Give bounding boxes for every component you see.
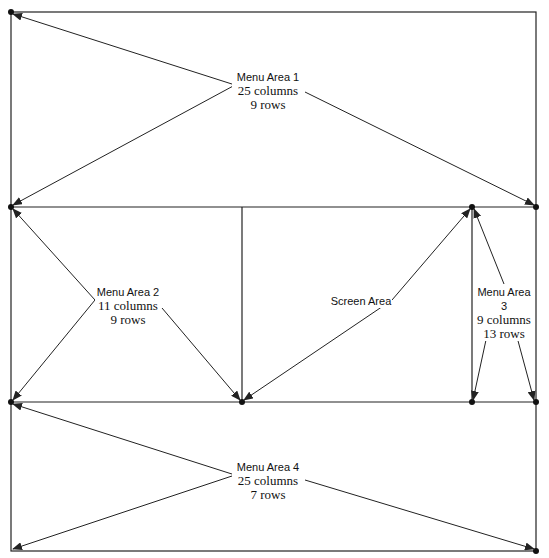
label-menu-area-3: Menu Area 3 9 columns 13 rows: [473, 285, 535, 341]
label-screen-area: Screen Area: [330, 294, 392, 308]
label-menu-area-2: Menu Area 2 11 columns 9 rows: [95, 285, 161, 327]
label-menu-area-4: Menu Area 4 25 columns 7 rows: [232, 460, 304, 502]
label-menu-area-1: Menu Area 1 25 columns 9 rows: [232, 70, 304, 112]
